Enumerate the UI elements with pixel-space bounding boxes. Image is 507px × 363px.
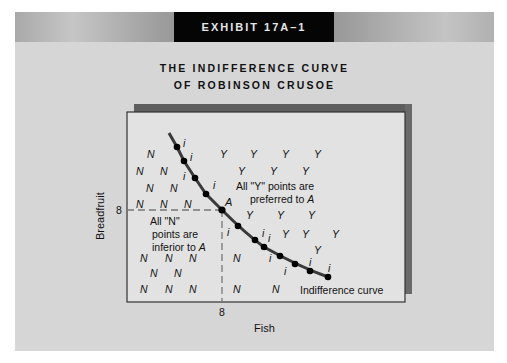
plot-shadow-top [134, 104, 412, 112]
svg-text:N: N [146, 182, 154, 194]
point-a-label: A [224, 196, 232, 208]
y-axis-label: Breadfruit [94, 192, 106, 240]
svg-text:N: N [140, 283, 148, 295]
svg-text:N: N [170, 182, 178, 194]
svg-text:Y: Y [270, 165, 278, 177]
svg-text:N: N [174, 267, 182, 279]
indifference-chart: Breadfruit 8 8 Fish A All "Y" points are… [0, 0, 507, 363]
svg-text:N: N [160, 165, 168, 177]
y-note-line2: preferred to A [250, 193, 314, 205]
svg-text:N: N [189, 283, 197, 295]
svg-text:Y: Y [246, 209, 254, 221]
svg-text:Y: Y [332, 228, 340, 240]
n-note-line1: All "N" [150, 215, 180, 227]
svg-text:N: N [189, 252, 197, 264]
svg-text:N: N [233, 283, 241, 295]
n-note-line3: inferior to A [152, 241, 206, 253]
svg-text:N: N [184, 198, 192, 210]
svg-text:N: N [160, 198, 168, 210]
svg-text:Y: Y [238, 165, 246, 177]
svg-text:Y: Y [314, 148, 322, 160]
svg-text:N: N [272, 283, 280, 295]
x-tick-8: 8 [219, 306, 225, 318]
svg-text:N: N [147, 148, 155, 160]
svg-text:Y: Y [302, 228, 310, 240]
svg-text:Y: Y [220, 148, 228, 160]
plot-area [127, 112, 405, 302]
svg-text:N: N [233, 252, 241, 264]
svg-text:Y: Y [308, 209, 316, 221]
svg-text:N: N [140, 252, 148, 264]
curve-label: Indifference curve [300, 284, 383, 296]
n-note-line2: points are [152, 228, 198, 240]
svg-text:Y: Y [314, 244, 322, 256]
svg-text:Y: Y [302, 165, 310, 177]
x-axis-label: Fish [254, 322, 275, 334]
svg-text:Y: Y [282, 148, 290, 160]
y-note-line1: All "Y" points are [236, 180, 314, 192]
y-tick-8: 8 [116, 204, 122, 216]
svg-text:N: N [136, 198, 144, 210]
svg-text:Y: Y [250, 148, 258, 160]
svg-text:N: N [150, 267, 158, 279]
svg-text:N: N [136, 165, 144, 177]
svg-text:Y: Y [282, 228, 290, 240]
svg-text:N: N [165, 252, 173, 264]
plot-shadow-right [405, 104, 412, 294]
svg-text:Y: Y [277, 209, 285, 221]
svg-text:N: N [165, 283, 173, 295]
